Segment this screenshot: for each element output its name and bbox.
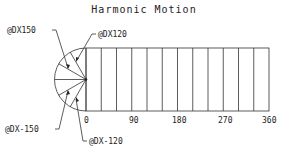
grid-division-lines [101,48,254,111]
diagram-svg: Harmonic Motion @DX150 @DX120 [0,0,292,156]
leader-dm150 [55,91,68,129]
callout-d150: @DX150 [7,26,36,35]
tick-label-180: 180 [172,116,187,125]
tick-label-90: 90 [129,116,139,125]
center-point [85,78,88,81]
callout-d120: @DX120 [98,30,127,39]
leader-lines [52,30,96,141]
tick-label-360: 360 [262,116,277,125]
tick-label-270: 270 [218,116,233,125]
division-grid [86,48,269,111]
diagram-title: Harmonic Motion [91,4,196,15]
callout-dm150: @DX-150 [5,125,39,134]
harmonic-motion-diagram: Harmonic Motion @DX150 @DX120 [0,0,292,156]
generating-semicircle [55,48,88,111]
tick-label-0: 0 [84,116,89,125]
leader-d120 [77,34,96,60]
callout-dm120: @DX-120 [89,137,123,146]
semicircle-rays [55,48,87,111]
